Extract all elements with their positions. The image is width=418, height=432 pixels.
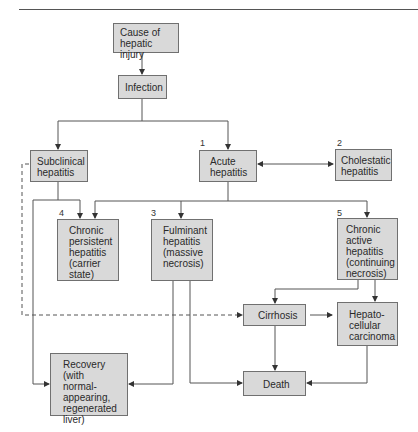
- node-label: Chronic active hepatitis (continuing nec…: [346, 224, 389, 279]
- node-label: Hepato- cellular carcinoma: [349, 309, 386, 342]
- node-cause: Cause of hepatic injury: [113, 23, 179, 53]
- node-label: Acute hepatitis: [210, 156, 246, 178]
- node-death: Death: [243, 371, 306, 396]
- node-number-5: 5: [337, 208, 342, 218]
- hepatitis-flowchart: Cause of hepatic injury Infection Subcli…: [0, 0, 418, 432]
- node-infection: Infection: [118, 75, 167, 99]
- node-label: Cholestatic hepatitis: [341, 155, 386, 177]
- node-number-2: 2: [337, 138, 342, 148]
- node-recovery: Recovery (with normal- appearing, regene…: [50, 353, 128, 416]
- node-label: Fulminant hepatitis (massive necrosis): [163, 225, 201, 269]
- node-label: Subclinical hepatitis: [37, 156, 81, 178]
- node-subclinical: Subclinical hepatitis: [30, 150, 88, 182]
- node-hepatocellular-carcinoma: Hepato- cellular carcinoma: [337, 302, 398, 346]
- node-chronic-persistent: Chronic persistent hepatitis (carrier st…: [57, 219, 119, 281]
- node-label: Infection: [125, 82, 160, 93]
- node-label: Cirrhosis: [258, 310, 291, 321]
- node-label: Chronic persistent hepatitis (carrier st…: [69, 225, 107, 280]
- node-label: Death: [263, 379, 286, 390]
- node-label: Cause of hepatic injury: [120, 27, 172, 60]
- node-label: Recovery (with normal- appearing, regene…: [63, 359, 115, 425]
- node-number-4: 4: [59, 208, 64, 218]
- node-fulminant: Fulminant hepatitis (massive necrosis): [151, 219, 213, 281]
- node-number-3: 3: [151, 208, 156, 218]
- node-acute: Acute hepatitis: [199, 150, 257, 182]
- node-cirrhosis: Cirrhosis: [243, 304, 306, 326]
- node-chronic-active: Chronic active hepatitis (continuing nec…: [337, 218, 398, 280]
- node-cholestatic: Cholestatic hepatitis: [335, 149, 392, 181]
- node-number-1: 1: [200, 138, 205, 148]
